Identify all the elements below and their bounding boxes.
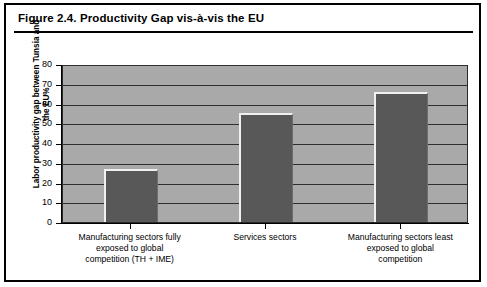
y-tick-label: 50 bbox=[26, 119, 52, 128]
y-tick-label: 0 bbox=[26, 218, 52, 227]
y-tick-mark bbox=[56, 203, 62, 204]
x-tick-mark bbox=[265, 224, 266, 229]
plot-area bbox=[62, 65, 468, 223]
x-category-label-line: exposed to global bbox=[55, 243, 205, 254]
x-category-label-line: competition bbox=[325, 254, 475, 265]
y-tick-label: 60 bbox=[26, 100, 52, 109]
title-divider bbox=[14, 31, 473, 33]
x-category-label-line: competition (TH + IME) bbox=[55, 254, 205, 265]
y-tick-label: 30 bbox=[26, 159, 52, 168]
x-category-label-line: Manufacturing sectors least bbox=[325, 232, 475, 243]
x-category-label-line: exposed to global bbox=[325, 243, 475, 254]
y-tick-label: 70 bbox=[26, 80, 52, 89]
y-tick-mark bbox=[56, 124, 62, 125]
y-tick-label: 10 bbox=[26, 198, 52, 207]
gridline bbox=[63, 65, 467, 66]
bar bbox=[104, 169, 158, 222]
gridline bbox=[63, 85, 467, 86]
x-tick-mark bbox=[400, 224, 401, 229]
y-tick-label: 80 bbox=[26, 60, 52, 69]
y-tick-mark bbox=[56, 223, 62, 224]
figure-frame: Figure 2.4. Productivity Gap vis-à-vis t… bbox=[4, 3, 481, 282]
y-tick-mark bbox=[56, 164, 62, 165]
y-tick-mark bbox=[56, 85, 62, 86]
x-category-label: Manufacturing sectors fullyexposed to gl… bbox=[55, 232, 205, 265]
y-tick-label: 40 bbox=[26, 139, 52, 148]
x-category-label-line: Manufacturing sectors fully bbox=[55, 232, 205, 243]
bar bbox=[239, 113, 293, 222]
y-tick-mark bbox=[56, 105, 62, 106]
x-category-label-line: Services sectors bbox=[205, 232, 325, 243]
y-tick-label: 20 bbox=[26, 179, 52, 188]
y-tick-mark bbox=[56, 144, 62, 145]
x-category-label: Services sectors bbox=[205, 232, 325, 243]
bar bbox=[374, 92, 428, 222]
y-tick-mark bbox=[56, 65, 62, 66]
y-tick-mark bbox=[56, 184, 62, 185]
x-tick-mark bbox=[130, 224, 131, 229]
x-category-label: Manufacturing sectors leastexposed to gl… bbox=[325, 232, 475, 265]
